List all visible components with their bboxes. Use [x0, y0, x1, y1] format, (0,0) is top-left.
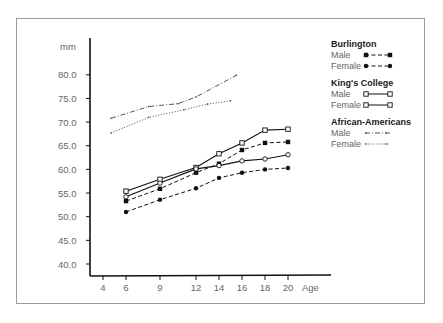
x-tick-label: 9	[157, 282, 162, 293]
legend-item-label: Female	[331, 139, 361, 149]
series-african-americans-female	[110, 100, 231, 134]
series-burlington-female	[124, 166, 290, 214]
y-axis-unit-label: mm	[60, 41, 76, 52]
y-tick-label: 45.0	[58, 235, 77, 246]
x-tick-label: 16	[237, 282, 248, 293]
x-axis-label: Age	[302, 282, 319, 293]
legend-group-title: African-Americans	[331, 117, 411, 127]
x-tick-label: 6	[123, 282, 128, 293]
series-king-s-college-female	[124, 153, 290, 199]
x-tick-label: 12	[191, 282, 202, 293]
legend-group-title: Burlington	[331, 39, 377, 49]
y-tick-label: 60.0	[58, 164, 77, 175]
y-tick-label: 50.0	[58, 211, 77, 222]
y-tick-label: 65.0	[58, 140, 77, 151]
series-african-americans-male	[110, 74, 237, 119]
legend-item-label: Male	[331, 50, 351, 60]
legend-item-label: Female	[331, 61, 361, 71]
y-tick-label: 80.0	[58, 69, 77, 80]
x-tick-label: 14	[214, 282, 225, 293]
x-tick-label: 18	[260, 282, 271, 293]
y-tick-label: 70.0	[58, 117, 77, 128]
x-axis	[90, 275, 331, 276]
legend-item-label: Male	[331, 89, 351, 99]
x-tick-label: 20	[283, 282, 294, 293]
series-layer	[110, 74, 290, 214]
x-tick-label: 4	[100, 282, 105, 293]
y-tick-label: 55.0	[58, 188, 77, 199]
legend-item-label: Male	[331, 128, 351, 138]
legend: BurlingtonMaleFemaleKing's CollegeMaleFe…	[331, 39, 411, 149]
growth-line-chart: 40.045.050.055.060.065.070.075.080.04691…	[0, 0, 443, 323]
y-tick-label: 40.0	[58, 259, 77, 270]
legend-group-title: King's College	[331, 78, 393, 88]
legend-item-label: Female	[331, 100, 361, 110]
y-tick-label: 75.0	[58, 93, 77, 104]
